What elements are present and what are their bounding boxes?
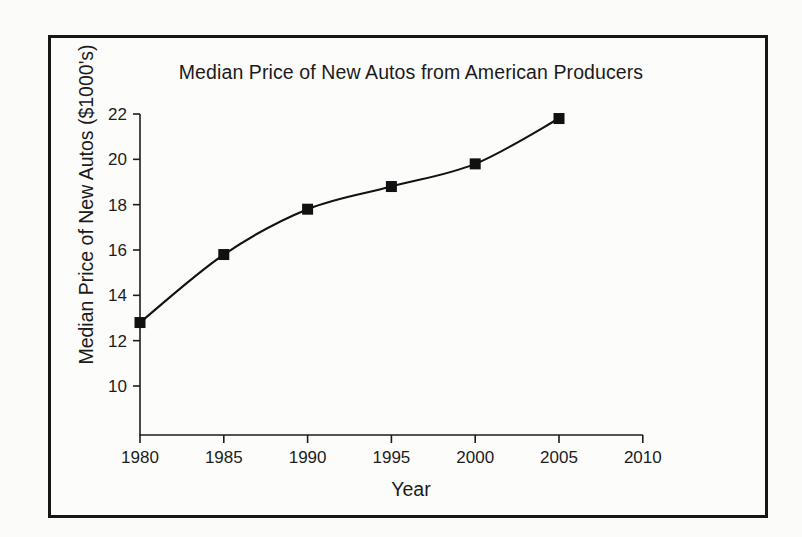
- figure-root: Median Price of New Autos from American …: [0, 0, 802, 537]
- x-tick-label: 1990: [289, 448, 327, 467]
- y-tick-label: 14: [108, 286, 127, 305]
- x-tick-label: 2000: [456, 448, 494, 467]
- x-tick-label: 1995: [372, 448, 410, 467]
- x-axis-ticks: 1980198519901995200020052010: [121, 435, 662, 467]
- data-point-marker: [554, 113, 565, 124]
- plot-area: 10121416182022 1980198519901995200020052…: [51, 38, 771, 521]
- axes: [140, 114, 643, 435]
- series-line: [140, 119, 559, 323]
- axis-lines: [140, 114, 643, 435]
- data-point-marker: [302, 204, 313, 215]
- y-tick-label: 10: [108, 377, 127, 396]
- x-tick-label: 2010: [624, 448, 662, 467]
- data-point-marker: [135, 317, 146, 328]
- y-axis-ticks: 10121416182022: [108, 105, 140, 396]
- data-series: [135, 113, 565, 328]
- x-tick-label: 1980: [121, 448, 159, 467]
- y-tick-label: 22: [108, 105, 127, 124]
- data-point-marker: [386, 181, 397, 192]
- chart-frame: Median Price of New Autos from American …: [48, 35, 768, 518]
- x-tick-label: 2005: [540, 448, 578, 467]
- x-tick-label: 1985: [205, 448, 243, 467]
- data-point-marker: [470, 158, 481, 169]
- data-point-marker: [218, 249, 229, 260]
- y-tick-label: 12: [108, 332, 127, 351]
- y-tick-label: 20: [108, 150, 127, 169]
- y-tick-label: 18: [108, 196, 127, 215]
- y-tick-label: 16: [108, 241, 127, 260]
